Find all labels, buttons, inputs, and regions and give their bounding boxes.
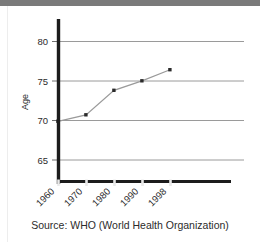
x-tick-label-1990: 1990 [118,186,141,209]
data-point-1998 [168,68,171,71]
data-point-1980 [112,89,115,92]
x-tick-label-1960: 1960 [34,186,57,209]
x-tick-label-1980: 1980 [90,186,113,209]
y-tick-labels: 80 75 70 65 [37,36,48,166]
gridlines [58,42,244,161]
x-tick-label-1998: 1998 [146,186,169,209]
y-tick-label-70: 70 [37,115,48,126]
x-tick-label-1970: 1970 [62,186,85,209]
y-axis-title: Age [20,94,30,110]
line-chart-plot: 80 75 70 65 Age [0,0,260,242]
y-tick-label-65: 65 [37,155,48,166]
y-tick-label-75: 75 [37,76,48,87]
x-tick-labels: 1960 1970 1980 1990 1998 [34,186,169,209]
data-point-1970 [84,113,87,116]
data-point-1990 [140,79,143,82]
source-caption: Source: WHO (World Health Organization) [0,219,260,231]
data-line-life-expectancy [58,70,170,122]
y-tick-label-80: 80 [37,36,48,47]
chart-figure: 80 75 70 65 Age [0,0,260,242]
